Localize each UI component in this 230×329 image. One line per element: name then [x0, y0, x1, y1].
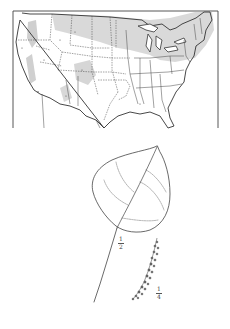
leaf-illustration [92, 146, 170, 302]
leaf-scale-numerator: 1 [119, 235, 123, 242]
leaf-petiole [94, 228, 117, 302]
us-range-map [13, 11, 218, 128]
leaf-scale-label: 1 2 [117, 236, 125, 250]
catkin-scale-label: 1 4 [155, 286, 163, 300]
catkin-scale-numerator: 1 [157, 285, 161, 292]
catkin-scale-denominator: 4 [157, 293, 161, 300]
plate-drawing [0, 0, 230, 329]
botanical-plate: 1 2 1 4 [0, 0, 230, 329]
leaf-scale-denominator: 2 [119, 243, 123, 250]
leaf-midrib [117, 147, 157, 228]
leaf-blade [92, 146, 170, 232]
range-shading-west-2 [74, 60, 96, 85]
range-shading-west-1 [27, 20, 38, 48]
range-shading-west-3 [60, 84, 72, 102]
